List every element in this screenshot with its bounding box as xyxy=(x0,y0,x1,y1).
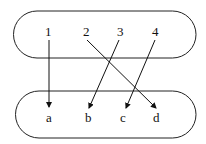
codomain-element-b: b xyxy=(85,110,92,125)
mapping-diagram: 1 2 3 4 a b c d xyxy=(0,0,206,144)
domain-element-2: 2 xyxy=(83,24,90,39)
codomain-element-c: c xyxy=(120,110,126,125)
codomain-element-d: d xyxy=(153,110,160,125)
arrow-4-to-c xyxy=(126,40,155,108)
codomain-set-oval xyxy=(16,91,197,138)
arrow-3-to-b xyxy=(89,40,119,108)
arrow-2-to-d xyxy=(87,40,156,108)
codomain-element-a: a xyxy=(46,110,52,125)
domain-element-1: 1 xyxy=(45,24,52,39)
domain-element-3: 3 xyxy=(117,24,124,39)
domain-set-oval xyxy=(14,11,197,58)
domain-element-4: 4 xyxy=(152,24,159,39)
